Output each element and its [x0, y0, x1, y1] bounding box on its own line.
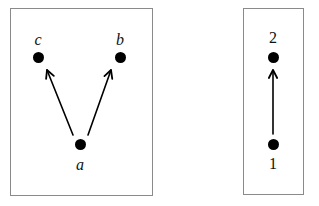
- node-1[interactable]: [268, 139, 279, 150]
- node-b[interactable]: [115, 52, 126, 63]
- node-label-b: b: [105, 32, 135, 48]
- node-label-c: c: [23, 32, 53, 48]
- node-c[interactable]: [33, 52, 44, 63]
- node-label-a: a: [65, 157, 95, 173]
- causal-graph-figure: cba21: [0, 0, 319, 206]
- node-label-1: 1: [258, 156, 288, 172]
- node-label-2: 2: [258, 30, 288, 46]
- node-a[interactable]: [75, 139, 86, 150]
- node-2[interactable]: [268, 52, 279, 63]
